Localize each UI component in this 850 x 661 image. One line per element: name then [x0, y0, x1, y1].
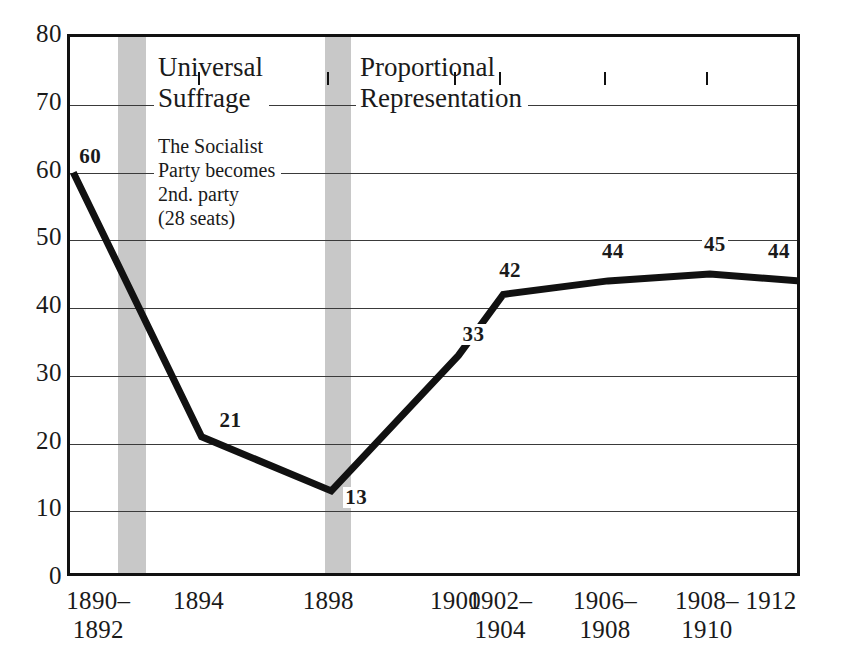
- x-tick-1894: [198, 72, 200, 85]
- y-tick-label-60: 60: [2, 157, 62, 182]
- x-tick-label-line1: 1912: [701, 586, 841, 615]
- y-tick-label-70: 70: [2, 89, 62, 114]
- point-label-1898: 13: [343, 487, 369, 508]
- point-label-1902: 42: [497, 260, 523, 281]
- annotation-socialist-party: The Socialist Party becomes 2nd. party (…: [154, 133, 281, 231]
- x-tick-label-line1: 1894: [129, 586, 269, 615]
- y-tick-label-30: 30: [2, 360, 62, 385]
- plot-area: 6021133342444544 Universal SuffrageThe S…: [67, 34, 800, 576]
- series-line: [70, 37, 797, 573]
- x-tick-1906: [604, 72, 606, 85]
- x-tick-1908: [706, 72, 708, 85]
- x-tick-label-line2: 1910: [637, 615, 777, 644]
- y-tick-label-10: 10: [2, 495, 62, 520]
- annotation-universal-suffrage: Universal Suffrage: [154, 51, 269, 115]
- x-tick-label-1894: 1894: [129, 586, 269, 615]
- x-tick-1900: [454, 72, 456, 85]
- x-tick-label-line2: 1892: [28, 615, 168, 644]
- point-label-1890: 60: [77, 146, 103, 167]
- point-label-1908: 45: [702, 234, 728, 255]
- x-tick-label-1912: 1912: [701, 586, 841, 615]
- y-tick-label-20: 20: [2, 428, 62, 453]
- y-tick-label-40: 40: [2, 292, 62, 317]
- x-tick-1898: [327, 72, 329, 85]
- x-tick-label-line1: 1898: [258, 586, 398, 615]
- annotation-proportional-representation: Proportional Representation: [356, 51, 528, 115]
- point-label-1894: 21: [218, 410, 244, 431]
- y-tick-label-80: 80: [2, 21, 62, 46]
- x-tick-label-1898: 1898: [258, 586, 398, 615]
- plot-inner: 6021133342444544 Universal SuffrageThe S…: [70, 37, 797, 573]
- point-label-1906: 44: [600, 241, 626, 262]
- y-tick-label-0: 0: [2, 563, 62, 588]
- x-tick-1902: [499, 72, 501, 85]
- point-label-1900: 33: [460, 324, 486, 345]
- y-tick-label-50: 50: [2, 224, 62, 249]
- line-chart-figure: 01020304050607080 6021133342444544 Unive…: [0, 0, 850, 661]
- point-label-1912: 44: [766, 241, 792, 262]
